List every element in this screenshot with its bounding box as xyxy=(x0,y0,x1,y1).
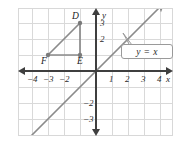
x-axis-name: x xyxy=(166,75,170,84)
y-axis-name: y xyxy=(102,11,106,20)
gridline-vertical xyxy=(128,9,129,135)
equation-callout-label: y = x xyxy=(136,47,158,57)
figure-screenshot: −4 −3 −2 1 2 3 4 3 2 −2 −3 y x D E F y =… xyxy=(0,0,185,144)
vertex-label-d: D xyxy=(72,12,79,21)
equation-callout: y = x xyxy=(121,44,173,59)
vertex-label-f: F xyxy=(41,57,47,66)
x-tick-label-1: 1 xyxy=(109,75,114,84)
x-tick-label-2: 2 xyxy=(125,75,130,84)
x-tick-label-neg3: −3 xyxy=(43,75,54,84)
y-axis xyxy=(95,11,97,133)
x-tick-label-neg2: −2 xyxy=(59,75,70,84)
y-tick-label-neg2: −2 xyxy=(83,99,94,108)
y-tick-label-3: 3 xyxy=(100,19,105,28)
gridline-vertical xyxy=(144,9,145,135)
x-tick-label-4: 4 xyxy=(157,75,162,84)
gridline-vertical xyxy=(48,9,49,135)
gridline-vertical xyxy=(64,9,65,135)
y-tick-label-2: 2 xyxy=(100,35,105,44)
y-tick-label-neg3: −3 xyxy=(83,115,94,124)
y-axis-arrow-down xyxy=(92,129,100,136)
gridline-vertical xyxy=(160,9,161,135)
gridline-vertical xyxy=(80,9,81,135)
vertex-label-e: E xyxy=(77,57,83,66)
gridline-vertical xyxy=(32,9,33,135)
x-tick-label-3: 3 xyxy=(141,75,146,84)
y-axis-arrow-up xyxy=(92,8,100,15)
x-axis-arrow-left xyxy=(18,67,25,75)
gridline-vertical xyxy=(112,9,113,135)
x-tick-label-neg4: −4 xyxy=(27,75,38,84)
coordinate-plane: −4 −3 −2 1 2 3 4 3 2 −2 −3 y x D E F y =… xyxy=(18,8,173,136)
